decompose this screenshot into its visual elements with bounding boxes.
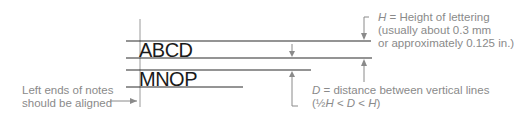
h-note-line1: H = Height of lettering [378, 11, 514, 24]
lettering-guideline-diagram: ABCD MNOP Left ends of notes should be a… [0, 0, 521, 118]
h-arrow-down-icon [361, 33, 367, 40]
left-note-line1: Left ends of notes [22, 84, 113, 97]
d-arrow-up-icon [289, 71, 295, 77]
left-note-line2: should be aligned [22, 97, 113, 110]
d-note-line2: (½H < D < H) [312, 97, 489, 110]
h-note: H = Height of lettering (usually about 0… [378, 11, 514, 50]
d-note: D = distance between vertical lines (½H … [312, 84, 489, 110]
left-note: Left ends of notes should be aligned [22, 84, 113, 110]
sample-lettering-mnop: MNOP [139, 69, 197, 89]
sample-lettering-abcd: ABCD [139, 40, 193, 60]
h-note-line2: (usually about 0.3 mm [378, 24, 514, 37]
d-arrow-down-icon [289, 51, 295, 57]
d-bracket [292, 74, 298, 106]
h-definition: Height of lettering [399, 11, 489, 23]
h-note-line3: or approximately 0.125 in.) [378, 37, 514, 50]
d-definition: distance between vertical lines [333, 84, 489, 96]
h-arrow-up-icon [361, 59, 367, 66]
d-note-line1: D = distance between vertical lines [312, 84, 489, 97]
